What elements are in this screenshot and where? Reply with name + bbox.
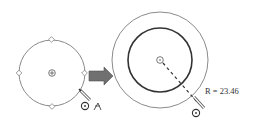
center-point-icon	[157, 57, 164, 64]
radius-line	[163, 63, 197, 102]
circle-cursor-icon	[192, 109, 199, 116]
transition-arrow	[89, 67, 113, 85]
handle-left[interactable]	[16, 70, 22, 76]
center-point-icon	[49, 70, 56, 77]
circle-cursor-icon	[81, 102, 88, 109]
handle-top[interactable]	[49, 37, 55, 43]
pencil-icon	[79, 89, 90, 100]
before-circle-group	[16, 37, 101, 110]
handle-bottom[interactable]	[49, 104, 55, 110]
sketch-diagram	[0, 0, 260, 131]
radius-label: R = 23.46	[205, 86, 239, 96]
after-circle-group	[112, 12, 208, 117]
snap-icon	[94, 103, 101, 110]
handle-right[interactable]	[82, 70, 88, 76]
pencil-icon	[194, 97, 204, 108]
